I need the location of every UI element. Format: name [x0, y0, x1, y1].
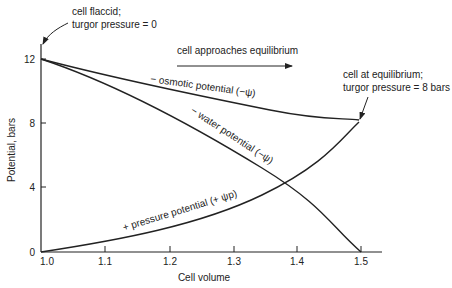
y-tick-0: 0 [29, 247, 35, 258]
x-tick-1.3: 1.3 [227, 256, 241, 267]
flaccid-annotation-line1: cell flaccid; [72, 6, 121, 17]
x-tick-1.4: 1.4 [290, 256, 304, 267]
pressure-potential-curve [41, 122, 359, 252]
osmotic-label: − osmotic potential (−ψ) [150, 73, 257, 99]
x-axis-label: Cell volume [178, 272, 231, 283]
equilibrium-annotation-line1: cell at equilibrium; [343, 69, 423, 80]
x-tick-1.5: 1.5 [354, 256, 368, 267]
flaccid-annotation-line2: turgor pressure = 0 [72, 19, 157, 30]
equilibrium-annotation-line2: turgor pressure = 8 bars [343, 82, 450, 93]
equilibrium-arrow [360, 97, 368, 119]
pressure-label: + pressure potential (+ ψp) [121, 188, 238, 233]
water-label: − water potential (−ψ) [189, 104, 276, 166]
y-ticks [41, 59, 46, 187]
y-tick-12: 12 [24, 54, 36, 65]
chart: 12 8 4 0 1.0 1.1 1.2 1.3 1.4 1.5 Cell vo… [0, 0, 452, 288]
approach-annotation: cell approaches equilibrium [177, 45, 298, 56]
y-tick-8: 8 [29, 118, 35, 129]
flaccid-arrow [43, 23, 68, 44]
y-tick-4: 4 [29, 182, 35, 193]
x-tick-1.1: 1.1 [98, 256, 112, 267]
y-axis-label: Potential, bars [6, 118, 17, 182]
x-tick-1.2: 1.2 [163, 256, 177, 267]
x-tick-1.0: 1.0 [40, 256, 54, 267]
x-ticks [105, 246, 361, 252]
